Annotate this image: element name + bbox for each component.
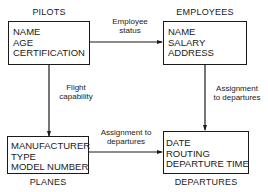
label-line: departures — [92, 137, 160, 146]
label-line: Flight — [50, 83, 102, 92]
label-line: to departures — [206, 93, 268, 102]
planes-title: PLANES — [7, 177, 89, 187]
planes-entity-box: MANUFACTURER TYPE MODEL NUMBER — [7, 136, 89, 174]
flight-capability-label: Flight capability — [50, 83, 102, 101]
employees-title: EMPLOYEES — [163, 7, 247, 17]
assignment-to-departures-bottom-label: Assignment to departures — [92, 128, 160, 146]
employees-entity-box: NAME SALARY ADDRESS — [163, 21, 247, 65]
employees-field-name: NAME — [168, 27, 246, 38]
pilots-field-certification: CERTIFICATION — [13, 48, 89, 59]
planes-field-model-number: MODEL NUMBER — [11, 162, 88, 173]
assignment-to-departures-right-label: Assignment to departures — [206, 84, 268, 102]
pilots-title: PILOTS — [8, 7, 90, 17]
label-line: Assignment — [206, 84, 268, 93]
departures-field-date: DATE — [166, 138, 248, 149]
label-line: Assignment to — [92, 128, 160, 137]
departures-entity-box: DATE ROUTING DEPARTURE TIME — [163, 131, 249, 174]
label-line: status — [100, 26, 160, 35]
label-line: Employee — [100, 17, 160, 26]
employee-status-label: Employee status — [100, 17, 160, 35]
departures-title: DEPARTURES — [163, 177, 249, 187]
label-line: capability — [50, 92, 102, 101]
pilots-field-name: NAME — [13, 27, 89, 38]
pilots-entity-box: NAME AGE CERTIFICATION — [8, 21, 90, 65]
employees-field-address: ADDRESS — [168, 48, 246, 59]
planes-field-manufacturer: MANUFACTURER — [11, 141, 88, 152]
departures-field-departure-time: DEPARTURE TIME — [166, 159, 248, 170]
